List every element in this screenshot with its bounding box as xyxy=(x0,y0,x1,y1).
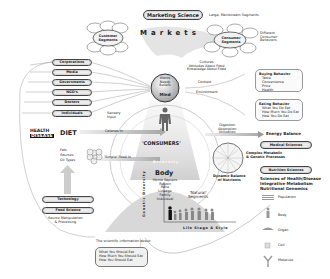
scientific-info-label: The scientific information about: xyxy=(96,240,151,244)
scale-population: Population xyxy=(278,196,296,200)
natural-segments-label: 'Natural'Segments xyxy=(188,191,208,200)
health-disease-logo: HEALTH DISEASE xyxy=(30,129,54,138)
medical-sciences-label: Medical Sciences xyxy=(260,141,312,149)
large-segments-note: Large, Mainstream Segments xyxy=(209,14,259,18)
technology-label: Technology xyxy=(42,196,94,203)
buying-behavior-box: Buying Behavior Taste Convenience Price … xyxy=(255,69,303,92)
food-science-label: Food Science xyxy=(42,207,94,214)
influencer-corporations: Corporations xyxy=(52,59,92,66)
influencer-media: Media xyxy=(52,69,92,76)
customer-segments-label: Customer Segments xyxy=(98,35,118,42)
should-eat-box: What You Should EatHow Much You Should E… xyxy=(95,247,148,267)
marketing-science-label: Marketing Science xyxy=(143,10,203,20)
digestion-label: DigestionAbsorptionUtilization xyxy=(218,124,236,135)
influencer-ngos: NGO's xyxy=(52,89,92,96)
dynamic-balance-label: Dynamic Balanceof Nutrients xyxy=(213,175,246,182)
diversity-label: Diversity xyxy=(153,161,179,165)
life-stage-axis-label: Life Stage & Style xyxy=(183,227,228,231)
complex-metabolic-label: Complex Metabolic& Genetic Processes xyxy=(246,152,285,159)
influencer-doctors: Doctors xyxy=(52,99,92,106)
simple-food-label: 'Simple' Food In xyxy=(104,156,131,160)
energy-balance-label: Energy Balance xyxy=(266,132,301,136)
body-items: Homo SapiensRegionRace LineageFamilyIndi… xyxy=(150,179,180,201)
scale-organ: Organ xyxy=(278,229,288,233)
context-label: Context xyxy=(198,81,211,85)
fats-sources-label: FatsSourcesOil Types xyxy=(60,148,75,163)
genetic-diversity-axis-label: Genetic Diversity xyxy=(143,170,147,217)
calories-in-label: Calories In xyxy=(105,130,123,134)
scale-body: Body xyxy=(278,214,287,218)
sciences-list: Sciences of Health/DiseaseIntegrative Me… xyxy=(260,177,321,191)
body-title: Body xyxy=(155,170,173,177)
mind-title: Mind xyxy=(157,93,173,97)
source-manipulation-label: Source Manipulation& Processing xyxy=(48,217,83,224)
diet-label: DIET xyxy=(60,130,77,137)
influencer-governments: Governments xyxy=(52,79,92,86)
consumer-segments-label: Consumer Segments xyxy=(220,37,242,44)
mind-attributes: WantsNeedsBeliefs xyxy=(158,77,172,88)
consumers-title: 'CONSUMERS' xyxy=(142,141,181,147)
nutrition-sciences-label: Nutrition Sciences xyxy=(260,166,312,174)
influencer-individuals: Individuals xyxy=(52,110,92,117)
context-items: CulturesAttitudes About FoodKnowledge Ab… xyxy=(187,61,226,72)
scale-molecule: Molecule xyxy=(278,259,293,263)
markets-title: Markets xyxy=(140,30,200,38)
environment-label: Environment xyxy=(196,91,218,95)
sensory-input-label: SensoryInput xyxy=(107,112,121,119)
scale-cell: Cell xyxy=(278,244,284,248)
eating-behavior-box: Eating Behavior What You Do Eat How Much… xyxy=(255,99,303,121)
different-behaviors-label: DifferentConsumerBehaviors xyxy=(260,32,277,43)
